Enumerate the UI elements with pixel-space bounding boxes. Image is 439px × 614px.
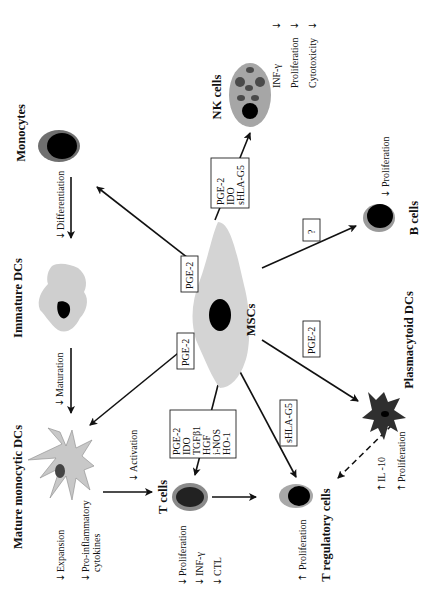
mature-dcs-effect-arrow-3: ↓ <box>128 474 139 482</box>
immature-dcs-effect-arrow: ↓ <box>54 399 65 407</box>
monocyte-cell <box>38 130 80 162</box>
mediator-nk-2: sHLA-G5 <box>235 165 246 205</box>
nk-effect-1: Proliferation <box>289 37 300 88</box>
nk-effect-arrow-2: ↓ <box>307 22 318 30</box>
t-cell <box>172 483 208 511</box>
mature-dc-cell <box>28 428 94 500</box>
treg-title: T regulatory cells <box>319 488 333 581</box>
mediator-box-treg: sHLA-G5 <box>280 400 297 446</box>
t-cells-effect-1: INF-γ <box>194 552 205 576</box>
mediator-box-nk: PGE-2 IDO sHLA-G5 <box>211 158 249 208</box>
mature-dcs-effect-arrow-0: ↓ <box>55 574 66 582</box>
t-cells-effect-arrow-2: ↓ <box>212 578 223 586</box>
nk-title: NK cells <box>210 74 224 119</box>
treg-effect-arrow: ↑ <box>297 574 308 582</box>
mediator-box-monocytes: PGE-2 <box>181 256 198 292</box>
b-cell <box>363 204 395 232</box>
nk-cell <box>229 63 271 127</box>
t-cells-effect-2: CTL <box>212 557 223 576</box>
mediator-box-pdcs: PGE-2 <box>303 321 320 357</box>
mediator-mature-dcs-0: PGE-2 <box>180 339 191 366</box>
msc-label: MSCs <box>244 304 258 337</box>
pdcs-effect-0: IL -10 <box>376 457 387 482</box>
t-cells-title: T cells <box>156 480 170 514</box>
mature-dcs-effect-2: cytokines <box>91 534 102 572</box>
nk-effect-0: INF-γ <box>271 64 282 88</box>
t-cells-effect-arrow-0: ↓ <box>177 578 188 586</box>
b-cells-effect-arrow: ↓ <box>380 190 391 198</box>
nk-effect-arrow-0: ↓ <box>271 22 282 30</box>
monocytes-title: Monocytes <box>14 104 28 162</box>
b-cells-title: B cells <box>407 201 421 236</box>
nk-effect-2: Cytotoxicity <box>307 38 318 88</box>
monocytes-effect-0: Differentiation <box>55 171 66 230</box>
msc-immunomodulation-diagram: MSCs PGE-2 IDO sHLA-G5 PGE-2 PGE-2 PGE-2… <box>0 0 439 614</box>
immature-dc-cell <box>39 264 87 332</box>
mediator-bcells-0: ? <box>306 229 317 234</box>
b-cells-effect-0: Proliferation <box>380 136 391 187</box>
mature-dcs-title: Mature monocytic DCs <box>11 425 25 549</box>
mediator-monocytes-0: PGE-2 <box>184 262 195 289</box>
mediator-tcells-5: HO-1 <box>221 432 232 455</box>
monocytes-effect-arrow: ↓ <box>55 232 66 240</box>
mature-dcs-effect-3: Activation <box>128 430 139 472</box>
mediator-pdcs-0: PGE-2 <box>306 327 317 354</box>
mature-dcs-effect-1: Pro-inflammatory <box>80 500 91 572</box>
mature-dcs-effect-0: Expansion <box>55 530 66 572</box>
arrow-msc-to-monocytes <box>97 187 188 258</box>
pdc-nucleus <box>381 411 389 417</box>
pdcs-effect-arrow-1: ↑ <box>396 484 407 492</box>
mediator-box-mature-dcs: PGE-2 <box>177 333 194 369</box>
t-cells-effect-arrow-1: ↓ <box>194 578 205 586</box>
treg-cell <box>279 484 313 508</box>
pdcs-effect-1: Proliferation <box>396 431 407 482</box>
immature-dcs-effect-0: Maturation <box>54 353 65 397</box>
mediator-box-bcells: ? <box>303 219 320 241</box>
msc-nucleus <box>209 299 231 331</box>
mediator-treg-0: sHLA-G5 <box>283 403 294 443</box>
mature-dc-nucleus <box>55 464 65 478</box>
t-cells-effect-0: Proliferation <box>177 525 188 576</box>
immature-dcs-title: Immature DCs <box>11 258 25 338</box>
nk-effect-arrow-1: ↓ <box>289 22 300 30</box>
pdcs-title: Plasmacytoid DCs <box>402 291 416 389</box>
mature-dcs-effect-arrow-1: ↓ <box>80 574 91 582</box>
pdcs-effect-arrow-0: ↑ <box>376 484 387 492</box>
treg-effect-0: Proliferation <box>297 519 308 570</box>
mediator-box-tcells: PGE-2 IDO TGFβ1 HGF i-NOS HO-1 <box>170 410 236 458</box>
